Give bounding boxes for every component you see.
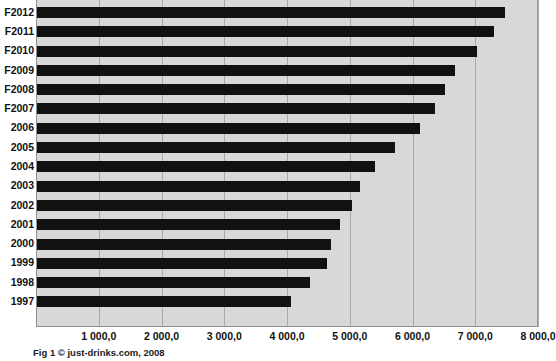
- x-axis-tick-label: 2 000,0: [144, 330, 179, 342]
- x-axis-tick-label: 8 000,0: [520, 330, 555, 342]
- gridline: [538, 0, 539, 327]
- y-axis-tick-label: 1998: [0, 277, 34, 288]
- y-axis-tick-labels: F2012F2011F2010F2009F2008F20072006200520…: [0, 0, 36, 327]
- y-axis-tick-label: 1999: [0, 257, 34, 268]
- bar: [36, 277, 310, 288]
- bar: [36, 7, 505, 18]
- figure-caption: Fig 1 © just-drinks.com, 2008: [33, 347, 165, 358]
- bar: [36, 181, 360, 192]
- x-axis-tick-label: 1 000,0: [81, 330, 116, 342]
- bar: [36, 123, 420, 134]
- y-axis-tick-label: 2005: [0, 142, 34, 153]
- bar: [36, 65, 455, 76]
- y-axis-tick-label: F2008: [0, 84, 34, 95]
- y-axis-line: [36, 0, 37, 327]
- plot-right-border: [537, 0, 538, 327]
- x-axis-tick-label: 6 000,0: [395, 330, 430, 342]
- x-axis-tick-label: 5 000,0: [332, 330, 367, 342]
- y-axis-tick-label: F2011: [0, 26, 34, 37]
- x-axis-tick-label: 7 000,0: [458, 330, 493, 342]
- y-axis-tick-label: 2002: [0, 200, 34, 211]
- y-axis-tick-label: 2004: [0, 161, 34, 172]
- y-axis-tick-label: 1997: [0, 296, 34, 307]
- y-axis-tick-label: 2001: [0, 219, 34, 230]
- bar: [36, 46, 477, 57]
- x-axis-tick-label: 3 000,0: [207, 330, 242, 342]
- y-axis-tick-label: 2003: [0, 180, 34, 191]
- y-axis-tick-label: F2007: [0, 103, 34, 114]
- bar: [36, 161, 375, 172]
- y-axis-tick-label: F2012: [0, 7, 34, 18]
- y-axis-tick-label: 2006: [0, 122, 34, 133]
- y-axis-tick-label: 2000: [0, 238, 34, 249]
- bar: [36, 200, 352, 211]
- x-axis-tick-labels: 1 000,02 000,03 000,04 000,05 000,06 000…: [0, 330, 554, 346]
- bar: [36, 239, 331, 250]
- plot-area: [36, 0, 538, 327]
- bar: [36, 26, 494, 37]
- bar: [36, 142, 395, 153]
- bar: [36, 219, 340, 230]
- bar: [36, 84, 445, 95]
- bar: [36, 103, 435, 114]
- x-axis-tick-label: 4 000,0: [269, 330, 304, 342]
- bar: [36, 258, 327, 269]
- bar: [36, 296, 291, 307]
- y-axis-tick-label: F2009: [0, 65, 34, 76]
- y-axis-tick-label: F2010: [0, 45, 34, 56]
- x-axis-line: [36, 326, 538, 327]
